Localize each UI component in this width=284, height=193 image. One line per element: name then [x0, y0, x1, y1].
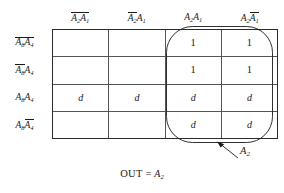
- row-header-3-var2: A4: [25, 119, 34, 131]
- table-row: 1 1: [53, 57, 277, 84]
- row-header-1: A8A4: [0, 57, 52, 85]
- row-header-2: A8A4: [0, 84, 52, 112]
- column-header-3-var2: A1: [250, 12, 259, 24]
- kmap-grid: 1 1 1 1 d d d d d d: [52, 29, 278, 139]
- group-arrow-line: [219, 143, 238, 158]
- kmap-cell-r0c2: 1: [166, 30, 222, 56]
- column-header-0-var2: A1: [80, 12, 89, 24]
- row-header-3: A8A4: [0, 112, 52, 140]
- equation-lhs: OUT: [120, 168, 142, 179]
- kmap-cell-r0c0: [53, 30, 109, 56]
- column-header-3: A2A1: [222, 8, 279, 28]
- kmap-cell-r2c3: d: [222, 85, 277, 111]
- equation-operator: =: [143, 168, 155, 179]
- column-header-1-var2: A1: [137, 13, 146, 23]
- row-header-1-var2: A4: [25, 65, 34, 75]
- row-header-1-var1: A8: [15, 64, 24, 76]
- column-header-0: A2A1: [52, 8, 109, 28]
- kmap-cell-r2c2: d: [166, 85, 222, 111]
- row-header-column: A8A4 A8A4 A8A4 A8A4: [0, 29, 52, 139]
- row-header-2-var1: A8: [15, 92, 24, 102]
- equation-rhs: A2: [154, 168, 164, 179]
- kmap-cell-r3c2: d: [166, 112, 222, 138]
- column-header-0-var1: A2: [71, 12, 80, 24]
- column-header-row: A2A1 A2A1 A2A1 A2A1: [52, 8, 278, 28]
- row-header-0-var1: A8: [15, 37, 24, 49]
- equation-rhs-sub: 2: [160, 173, 163, 180]
- kmap-cell-r3c0: [53, 112, 109, 138]
- row-header-3-var1: A8: [15, 120, 24, 130]
- table-row: 1 1: [53, 30, 277, 57]
- kmap-cell-r3c3: d: [222, 112, 277, 138]
- column-header-1-var1: A2: [128, 12, 137, 24]
- kmap-cell-r0c1: [109, 30, 165, 56]
- row-header-2-var2: A4: [25, 92, 34, 102]
- group-arrow-head-icon: [217, 142, 224, 148]
- kmap-cell-r2c0: d: [53, 85, 109, 111]
- group-label-sub: 2: [246, 150, 250, 158]
- kmap-cell-r1c3: 1: [222, 57, 277, 83]
- table-row: d d d d: [53, 85, 277, 112]
- column-header-2-var2: A1: [193, 12, 202, 22]
- karnaugh-map-figure: A2A1 A2A1 A2A1 A2A1 A8A4 A8A4: [0, 0, 284, 193]
- kmap-cell-r3c1: [109, 112, 165, 138]
- kmap-cell-r1c2: 1: [166, 57, 222, 83]
- row-header-0: A8A4: [0, 29, 52, 57]
- column-header-2-var1: A2: [184, 12, 193, 22]
- kmap-cell-r2c1: d: [109, 85, 165, 111]
- column-header-2: A2A1: [165, 8, 222, 28]
- table-row: d d: [53, 112, 277, 138]
- column-header-1: A2A1: [109, 8, 166, 28]
- row-header-0-var2: A4: [25, 37, 34, 49]
- output-equation: OUT=A2: [0, 169, 284, 180]
- kmap-cell-r0c3: 1: [222, 30, 277, 56]
- group-label-a2: A2: [240, 146, 250, 158]
- kmap-cell-r1c1: [109, 57, 165, 83]
- column-header-3-var1: A2: [241, 13, 250, 23]
- kmap-cell-r1c0: [53, 57, 109, 83]
